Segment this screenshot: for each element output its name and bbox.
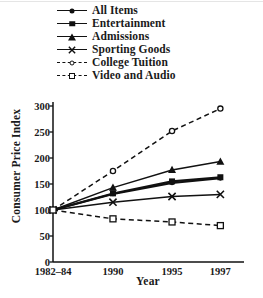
legend-item-entertainment[interactable]: Entertainment — [57, 17, 176, 30]
legend-item-video-and-audio[interactable]: Video and Audio — [57, 69, 176, 82]
marker-open-square — [217, 223, 223, 229]
legend-swatch — [57, 17, 87, 30]
marker-filled-triangle — [216, 157, 224, 164]
legend-label: All Items — [87, 4, 138, 17]
legend-swatch — [57, 56, 87, 69]
legend-label: Entertainment — [87, 17, 165, 30]
open-circle-icon — [70, 60, 75, 65]
series-line-video-and-audio — [53, 210, 220, 226]
legend-swatch — [57, 30, 87, 43]
legend-item-college-tuition[interactable]: College Tuition — [57, 56, 176, 69]
marker-open-circle — [218, 106, 223, 111]
legend-swatch — [57, 4, 87, 17]
legend-label: College Tuition — [87, 56, 168, 69]
legend-item-admissions[interactable]: Admissions — [57, 30, 176, 43]
legend-label: Video and Audio — [87, 69, 176, 82]
plot-area: Consumer Price Index 300250200150100500 … — [0, 96, 263, 298]
chart-figure: All ItemsEntertainmentAdmissionsSporting… — [0, 0, 263, 298]
legend-label: Sporting Goods — [87, 43, 170, 56]
legend-swatch — [57, 43, 87, 56]
marker-open-square — [169, 219, 175, 225]
chart-legend: All ItemsEntertainmentAdmissionsSporting… — [57, 4, 176, 82]
legend-label: Admissions — [87, 30, 149, 43]
filled-triangle-icon — [68, 33, 76, 40]
legend-item-sporting-goods[interactable]: Sporting Goods — [57, 43, 176, 56]
marker-open-circle — [169, 128, 174, 133]
marker-open-square — [50, 207, 56, 213]
marker-open-square — [110, 216, 116, 222]
open-square-icon — [69, 73, 75, 79]
marker-filled-square — [217, 174, 223, 180]
filled-circle-icon — [70, 8, 75, 13]
filled-square-icon — [69, 21, 75, 27]
marker-filled-square — [169, 178, 175, 184]
legend-item-all-items[interactable]: All Items — [57, 4, 176, 17]
marker-open-circle — [110, 168, 115, 173]
marker-filled-square — [110, 190, 116, 196]
series-canvas — [0, 96, 263, 282]
legend-swatch — [57, 69, 87, 82]
scan-artifact-line — [0, 1, 263, 2]
cross-x-icon — [68, 45, 77, 54]
